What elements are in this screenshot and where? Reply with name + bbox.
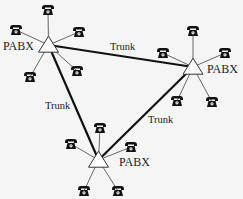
pabx-network-diagram: TrunkTrunkTrunkPABXPABXPABX [0, 0, 243, 199]
telephone-icon [71, 66, 83, 76]
trunk-line [99, 67, 194, 160]
telephone-icon [171, 96, 183, 106]
diagram-canvas: TrunkTrunkTrunkPABXPABXPABX [0, 0, 243, 199]
telephone-icon [125, 142, 137, 152]
telephone-icon [65, 139, 77, 149]
telephone-icon [219, 48, 231, 58]
telephone-icon [42, 5, 54, 15]
labels: TrunkTrunkTrunkPABXPABXPABX [3, 39, 238, 169]
trunk-label: Trunk [45, 100, 71, 111]
telephone-icon [112, 186, 124, 196]
telephone-icon [94, 123, 106, 133]
trunk-label: Trunk [110, 41, 136, 52]
pabx-label: PABX [207, 62, 238, 76]
telephone-icon [24, 72, 36, 82]
telephone-icon [206, 97, 218, 107]
telephone-icon [157, 48, 169, 58]
telephone-icon [10, 25, 22, 35]
telephone-icon [78, 186, 90, 196]
telephone-icon [187, 26, 199, 36]
pabx-label: PABX [119, 155, 150, 169]
pabx-triangle-icon [39, 36, 59, 52]
telephone-icon [73, 27, 85, 37]
pabx-label: PABX [3, 39, 34, 53]
trunk-label: Trunk [148, 114, 174, 125]
